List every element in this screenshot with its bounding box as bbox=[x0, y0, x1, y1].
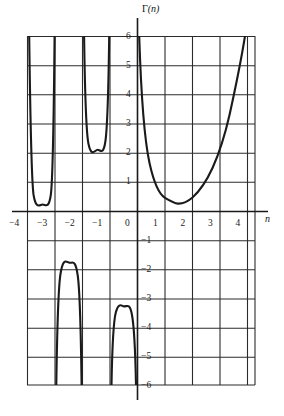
ytick-label-neg3: −3 bbox=[141, 294, 152, 304]
xtick-label-3: 3 bbox=[208, 219, 213, 229]
ytick-label-6: 6 bbox=[126, 32, 131, 42]
y-axis-title: Γ(n) bbox=[142, 4, 159, 14]
xtick-label-0: 0 bbox=[125, 219, 130, 229]
ytick-label-neg2: −2 bbox=[141, 265, 152, 275]
gamma-function-figure: 6 5 4 3 2 1 −1 −2 −3 −4 −5 −6 −4 −3 −2 −… bbox=[0, 0, 284, 416]
ytick-label-3: 3 bbox=[126, 119, 131, 129]
ytick-label-neg5: −5 bbox=[141, 352, 152, 362]
xtick-label-neg1: −1 bbox=[92, 219, 103, 229]
xtick-label-neg2: −2 bbox=[65, 219, 76, 229]
ytick-label-5: 5 bbox=[126, 61, 131, 71]
xtick-label-4: 4 bbox=[236, 219, 241, 229]
ytick-label-neg4: −4 bbox=[141, 323, 152, 333]
y-axis-title-arg: (n) bbox=[148, 3, 160, 14]
ytick-label-4: 4 bbox=[126, 90, 131, 100]
xtick-label-neg4: −4 bbox=[9, 219, 20, 229]
ytick-label-neg1: −1 bbox=[141, 236, 152, 246]
xtick-label-neg3: −3 bbox=[37, 219, 48, 229]
x-axis-title: n bbox=[265, 214, 270, 224]
ytick-label-1: 1 bbox=[126, 177, 131, 187]
xtick-label-1: 1 bbox=[153, 219, 158, 229]
xtick-label-2: 2 bbox=[181, 219, 186, 229]
ytick-label-neg6: −6 bbox=[141, 381, 152, 391]
ytick-label-2: 2 bbox=[126, 148, 131, 158]
